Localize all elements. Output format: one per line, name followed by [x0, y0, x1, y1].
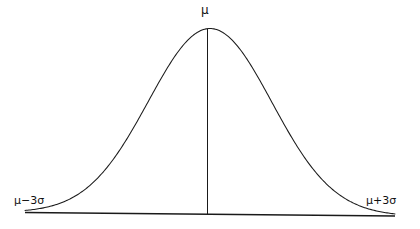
label-mu-plus-3-sigma: μ+3σ	[366, 195, 396, 207]
normal-distribution-figure: μ μ−3σ μ+3σ	[0, 0, 420, 229]
x-axis-baseline	[25, 213, 395, 217]
normal-density-curve	[25, 29, 395, 214]
label-mu-minus-3-sigma: μ−3σ	[14, 195, 44, 207]
bell-curve-plot	[0, 0, 420, 229]
label-mu: μ	[201, 4, 209, 16]
